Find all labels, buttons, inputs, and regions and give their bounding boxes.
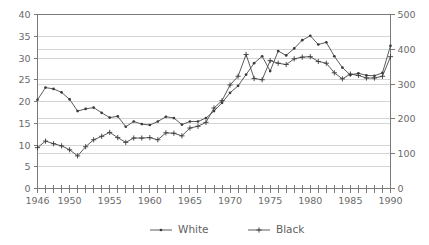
series-white xyxy=(36,34,392,128)
data-point-marker xyxy=(269,70,272,73)
y-left-tick-label: 15 xyxy=(18,118,30,129)
data-point-marker xyxy=(252,76,257,81)
y-left-tick-label: 35 xyxy=(18,31,30,42)
data-point-marker xyxy=(139,135,144,140)
data-point-marker xyxy=(140,123,143,126)
data-point-marker xyxy=(100,111,103,114)
data-point-marker xyxy=(197,120,200,123)
data-point-marker xyxy=(76,110,79,113)
data-point-marker xyxy=(189,120,192,123)
y-axis-left-ticks: 0510152025303540 xyxy=(18,9,37,194)
data-point-marker xyxy=(173,117,176,120)
gridlines xyxy=(38,15,391,167)
y-left-tick-label: 20 xyxy=(18,96,30,107)
data-point-marker xyxy=(205,117,208,120)
x-tick-label: 1946 xyxy=(25,195,49,206)
chart-container: 1946195019551960196519701975198019851990… xyxy=(0,0,429,245)
x-tick-label: 1950 xyxy=(57,195,81,206)
y-right-tick-label: 100 xyxy=(398,148,416,159)
legend-label-black: Black xyxy=(276,223,305,235)
y-axis-right-ticks: 0100200300400500 xyxy=(391,9,416,194)
data-point-marker xyxy=(108,116,111,119)
x-tick-label: 1970 xyxy=(218,195,242,206)
data-point-marker xyxy=(123,140,128,145)
y-left-tick-label: 0 xyxy=(24,183,30,194)
y-right-tick-label: 0 xyxy=(398,183,404,194)
data-point-marker xyxy=(388,54,393,59)
data-point-marker xyxy=(293,47,296,50)
data-point-marker xyxy=(181,123,184,126)
data-point-marker xyxy=(348,71,353,76)
data-point-marker xyxy=(237,84,240,87)
data-point-marker xyxy=(245,73,248,76)
y-left-tick-label: 25 xyxy=(18,74,30,85)
y-left-tick-label: 30 xyxy=(18,53,30,64)
data-point-marker xyxy=(285,54,288,57)
data-point-marker xyxy=(116,115,119,118)
y-left-tick-label: 5 xyxy=(24,161,30,172)
data-point-marker xyxy=(277,50,280,53)
data-point-marker xyxy=(317,43,320,46)
y-left-tick-label: 10 xyxy=(18,140,30,151)
data-point-marker xyxy=(268,58,273,63)
x-tick-label: 1990 xyxy=(378,195,402,206)
x-tick-label: 1960 xyxy=(138,195,162,206)
data-point-marker xyxy=(99,134,104,139)
data-point-marker xyxy=(203,120,208,125)
data-point-marker xyxy=(92,106,95,109)
x-tick-label: 1985 xyxy=(338,195,362,206)
data-point-marker xyxy=(156,120,159,123)
data-point-marker xyxy=(195,124,200,129)
x-axis-ticks: 1946195019551960196519701975198019851990 xyxy=(25,185,402,206)
data-point-marker xyxy=(68,98,71,101)
data-point-marker xyxy=(276,61,281,66)
x-tick-label: 1955 xyxy=(98,195,122,206)
data-point-marker xyxy=(115,135,120,140)
data-point-marker xyxy=(309,34,312,37)
data-point-marker xyxy=(243,52,248,57)
data-point-marker xyxy=(165,115,168,118)
data-point-marker xyxy=(301,39,304,42)
data-point-marker xyxy=(44,86,47,89)
data-point-marker xyxy=(380,74,385,79)
data-point-marker xyxy=(84,108,87,111)
data-point-marker xyxy=(333,55,336,58)
data-point-marker xyxy=(389,44,392,47)
data-point-marker xyxy=(160,229,163,232)
data-point-marker xyxy=(229,91,232,94)
data-point-marker xyxy=(132,120,135,123)
series-line-black xyxy=(38,55,391,156)
line-chart: 1946195019551960196519701975198019851990… xyxy=(0,0,429,245)
x-tick-label: 1975 xyxy=(258,195,282,206)
data-point-marker xyxy=(124,125,127,128)
y-right-tick-label: 200 xyxy=(398,113,416,124)
data-point-marker xyxy=(316,59,321,64)
y-right-tick-label: 500 xyxy=(398,9,416,20)
y-left-tick-label: 40 xyxy=(18,9,30,20)
data-point-marker xyxy=(148,124,151,127)
data-point-marker xyxy=(59,143,64,148)
y-right-tick-label: 400 xyxy=(398,44,416,55)
data-point-marker xyxy=(60,91,63,94)
data-point-marker xyxy=(36,98,39,101)
data-point-marker xyxy=(51,141,56,146)
x-tick-label: 1965 xyxy=(178,195,202,206)
x-tick-label: 1980 xyxy=(298,195,322,206)
data-point-marker xyxy=(256,227,261,232)
data-point-marker xyxy=(52,88,55,91)
data-point-marker xyxy=(261,55,264,58)
data-point-marker xyxy=(341,66,344,69)
chart-legend: WhiteBlack xyxy=(150,223,305,235)
y-right-tick-label: 300 xyxy=(398,79,416,90)
data-point-marker xyxy=(260,77,265,82)
data-point-marker xyxy=(107,130,112,135)
data-point-marker xyxy=(300,55,305,60)
data-point-marker xyxy=(253,62,256,65)
data-point-marker xyxy=(308,54,313,59)
data-point-marker xyxy=(147,135,152,140)
data-point-marker xyxy=(171,131,176,136)
legend-label-white: White xyxy=(178,223,209,235)
data-point-marker xyxy=(325,41,328,44)
data-point-marker xyxy=(131,135,136,140)
series-black xyxy=(35,52,393,159)
